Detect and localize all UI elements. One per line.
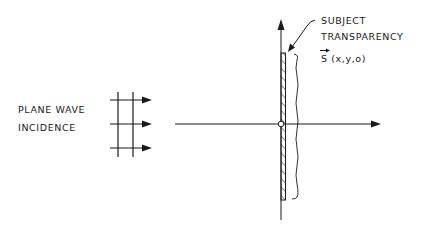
- transmitted-wave-brace: [292, 54, 298, 199]
- plane-wave-grid: [110, 92, 152, 157]
- subject-function-label: S (x,y,o): [321, 53, 366, 65]
- subject-label-line1: SUBJECT: [321, 15, 366, 27]
- subject-symbol: S: [321, 53, 328, 64]
- origin-marker: [278, 121, 284, 127]
- leader-arrow: [288, 20, 315, 52]
- subject-args: (x,y,o): [328, 53, 366, 64]
- vector-arrow-icon: [320, 49, 330, 53]
- incidence-label-line2: INCIDENCE: [18, 122, 76, 134]
- incidence-label-line1: PLANE WAVE: [18, 104, 85, 116]
- subject-label-line2: TRANSPARENCY: [321, 31, 403, 43]
